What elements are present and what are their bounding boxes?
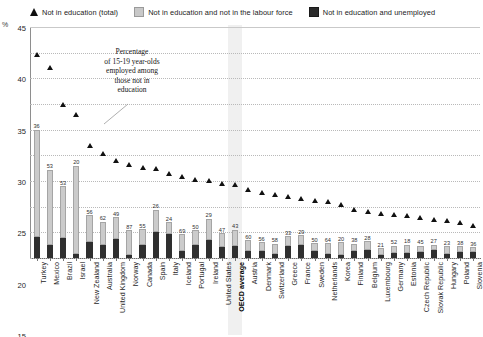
total-marker-triangle[interactable]: [192, 177, 198, 182]
bar-value-label: 58: [272, 237, 278, 243]
x-axis-category-label: United States: [225, 262, 233, 305]
total-marker-triangle[interactable]: [272, 192, 278, 197]
total-marker-triangle[interactable]: [259, 190, 265, 195]
bar-stack[interactable]: 27: [431, 27, 437, 258]
x-axis-tick: [368, 258, 369, 261]
bar-stack[interactable]: 50: [311, 27, 317, 258]
x-axis-tick: [103, 258, 104, 261]
bar-stack[interactable]: 23: [444, 27, 450, 258]
bar-segment-not-in-labour-force: [86, 215, 92, 242]
chart-legend: Not in education (total) Not in educatio…: [30, 4, 451, 20]
total-marker-triangle[interactable]: [47, 65, 53, 70]
bar-segment-unemployed: [192, 245, 198, 258]
total-marker-triangle[interactable]: [312, 198, 318, 203]
total-marker-triangle[interactable]: [298, 196, 304, 201]
bar-stack[interactable]: 53: [60, 27, 66, 258]
annotation-line-2: of 15-19 year-olds: [78, 57, 186, 67]
bar-stack[interactable]: 50: [192, 27, 198, 258]
total-marker-triangle[interactable]: [34, 52, 40, 57]
bar-stack[interactable]: 45: [417, 27, 423, 258]
total-marker-triangle[interactable]: [391, 212, 397, 217]
bar-stack[interactable]: 64: [325, 27, 331, 258]
total-marker-triangle[interactable]: [140, 165, 146, 170]
bar-stack[interactable]: 29: [298, 27, 304, 258]
bar-segment-unemployed: [311, 251, 317, 258]
x-axis-category-label: Norway: [132, 262, 140, 286]
bar-stack[interactable]: 43: [232, 27, 238, 258]
total-marker-triangle[interactable]: [444, 218, 450, 223]
total-marker-triangle[interactable]: [232, 182, 238, 187]
total-marker-triangle[interactable]: [100, 151, 106, 156]
bar-segment-not-in-labour-force: [457, 246, 463, 252]
bar-stack[interactable]: 36: [34, 27, 40, 258]
total-marker-triangle[interactable]: [60, 102, 66, 107]
bar-segment-not-in-labour-force: [126, 230, 132, 255]
total-marker-triangle[interactable]: [73, 112, 79, 117]
bar-stack[interactable]: 33: [285, 27, 291, 258]
total-marker-triangle[interactable]: [325, 199, 331, 204]
bar-value-label: 20: [338, 236, 344, 242]
total-marker-triangle[interactable]: [351, 207, 357, 212]
bar-stack[interactable]: 58: [272, 27, 278, 258]
total-marker-triangle[interactable]: [113, 158, 119, 163]
bar-stack[interactable]: 52: [391, 27, 397, 258]
total-marker-triangle[interactable]: [417, 215, 423, 220]
bar-stack[interactable]: 56: [259, 27, 265, 258]
total-marker-triangle[interactable]: [166, 171, 172, 176]
x-axis-tick: [434, 258, 435, 261]
total-marker-triangle[interactable]: [470, 223, 476, 228]
total-marker-triangle[interactable]: [404, 213, 410, 218]
bar-value-label: 28: [364, 235, 370, 241]
bar-stack[interactable]: 47: [219, 27, 225, 258]
total-marker-triangle[interactable]: [87, 143, 93, 148]
bar-segment-unemployed: [60, 238, 66, 258]
x-axis-category-label: Luxembourg: [384, 262, 392, 302]
x-axis-tick: [288, 258, 289, 261]
bar-segment-not-in-labour-force: [232, 230, 238, 246]
bar-stack[interactable]: 60: [245, 27, 251, 258]
total-marker-triangle[interactable]: [378, 211, 384, 216]
bar-stack[interactable]: 20: [338, 27, 344, 258]
total-marker-triangle[interactable]: [431, 217, 437, 222]
total-marker-triangle[interactable]: [365, 209, 371, 214]
bar-segment-not-in-labour-force: [404, 245, 410, 253]
bar-segment-not-in-labour-force: [417, 246, 423, 253]
total-marker-triangle[interactable]: [457, 220, 463, 225]
total-marker-triangle[interactable]: [153, 166, 159, 171]
x-axis-category-label: OECD average: [238, 262, 246, 312]
bar-stack[interactable]: 28: [364, 27, 370, 258]
total-marker-triangle[interactable]: [338, 202, 344, 207]
x-axis-tick: [420, 258, 421, 261]
x-axis-tick: [156, 258, 157, 261]
bar-stack[interactable]: 18: [404, 27, 410, 258]
x-axis-tick: [90, 258, 91, 261]
gridline: 30: [30, 104, 480, 105]
x-axis-category-label: Australia: [106, 262, 114, 290]
bar-value-label: 21: [378, 242, 384, 248]
light-square-icon: [134, 7, 144, 17]
bar-segment-not-in-labour-force: [245, 240, 251, 251]
total-marker-triangle[interactable]: [206, 178, 212, 183]
bar-value-label: 45: [417, 239, 423, 245]
bar-value-label: 56: [86, 209, 92, 215]
total-marker-triangle[interactable]: [245, 187, 251, 192]
x-axis-category-label: Brazil: [66, 262, 74, 280]
bar-value-label: 50: [192, 224, 198, 230]
bar-stack[interactable]: 53: [47, 27, 53, 258]
x-axis-tick: [169, 258, 170, 261]
bar-value-label: 87: [126, 224, 132, 230]
x-axis-tick: [222, 258, 223, 261]
total-marker-triangle[interactable]: [179, 174, 185, 179]
total-marker-triangle[interactable]: [126, 162, 132, 167]
x-axis-category-label: Greece: [291, 262, 299, 285]
bar-stack[interactable]: 29: [206, 27, 212, 258]
bar-value-label: 47: [219, 227, 225, 233]
x-axis-category-label: Canada: [146, 262, 154, 287]
total-marker-triangle[interactable]: [219, 181, 225, 186]
x-axis-tick: [195, 258, 196, 261]
bar-segment-unemployed: [364, 250, 370, 258]
total-marker-triangle[interactable]: [285, 194, 291, 199]
bar-stack[interactable]: 38: [351, 27, 357, 258]
bar-stack[interactable]: 21: [378, 27, 384, 258]
x-axis-category-label: Slovak Republic: [437, 262, 445, 313]
